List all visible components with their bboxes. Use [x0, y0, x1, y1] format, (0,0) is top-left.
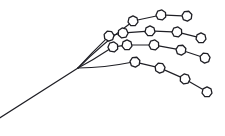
edge-b3n4-b3n5: [185, 51, 200, 56]
graph-node-b1n3[interactable]: [182, 11, 192, 21]
graph-node-b4n3[interactable]: [180, 74, 190, 84]
graph-node-b3n5[interactable]: [200, 53, 210, 63]
graph-figure: [0, 0, 225, 136]
graph-node-b1n2[interactable]: [156, 10, 166, 20]
graph-node-b3n1[interactable]: [108, 42, 118, 52]
graph-node-b4n2[interactable]: [155, 63, 165, 73]
edge-b1n2-b1n3: [166, 15, 183, 16]
graph-node-b2n2[interactable]: [118, 28, 128, 38]
edge-b3n3-b3n4: [159, 46, 177, 49]
edge-b4n2-b4n3: [164, 70, 180, 77]
graph-node-b4n1[interactable]: [130, 57, 140, 67]
graph-node-b4n4[interactable]: [202, 87, 212, 97]
edge-b4n3-b4n4: [189, 81, 203, 89]
graph-node-b3n3[interactable]: [149, 40, 159, 50]
edge-b1n1-b1n2: [138, 16, 157, 20]
edge-b2n3-b2n4: [155, 31, 173, 32]
edge-b4n1-b4n2: [140, 63, 156, 67]
graph-node-b3n4[interactable]: [176, 45, 186, 55]
root-tail-group: [0, 68, 78, 119]
edge-b2n4-b2n5: [182, 33, 197, 37]
graph-canvas: [0, 0, 225, 136]
nodes-group: [104, 10, 212, 97]
graph-node-b2n3[interactable]: [145, 26, 155, 36]
graph-node-b2n4[interactable]: [172, 27, 182, 37]
graph-node-b3n2[interactable]: [122, 40, 132, 50]
graph-node-b2n1[interactable]: [104, 31, 114, 41]
graph-node-b2n5[interactable]: [196, 33, 206, 43]
edge-b2n2-b2n3: [128, 31, 146, 32]
root-tail-stem: [0, 68, 78, 119]
graph-node-b1n1[interactable]: [128, 16, 138, 26]
